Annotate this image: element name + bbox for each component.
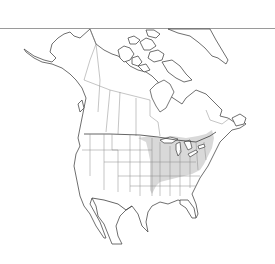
vancouver-island (78, 100, 84, 112)
greenland (168, 29, 228, 64)
north-america-range-map (0, 0, 275, 264)
